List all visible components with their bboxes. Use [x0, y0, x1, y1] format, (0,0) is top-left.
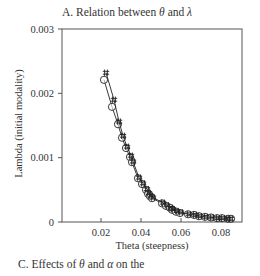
x-axis-label: Theta (steepness) — [62, 240, 242, 251]
y-tick-label: 0.003 — [30, 24, 54, 35]
title-prefix: A. Relation between — [62, 6, 159, 18]
circle-marker — [100, 76, 107, 83]
caption-mid: and — [85, 258, 107, 270]
chart-plot: 00.0010.0020.0030.020.040.060.08 — [0, 0, 260, 276]
chart-title: A. Relation between θ and λ — [62, 6, 192, 18]
x-tick-label: 0.04 — [132, 227, 151, 238]
y-tick-label: 0.001 — [30, 152, 54, 163]
title-mid: and — [165, 6, 187, 18]
x-tick-label: 0.08 — [212, 227, 230, 238]
y-axis-label: Lambda (initial modality) — [13, 54, 24, 194]
y-tick-label: 0 — [49, 217, 54, 228]
caption-prefix: C. Effects of — [18, 258, 79, 270]
lambda-symbol: λ — [187, 6, 192, 18]
circle-marker — [108, 103, 115, 110]
caption-suffix: on the — [113, 258, 144, 270]
x-tick-label: 0.02 — [92, 227, 110, 238]
x-tick-label: 0.06 — [172, 227, 190, 238]
next-figure-caption: C. Effects of θ and α on the — [18, 258, 144, 270]
y-tick-label: 0.002 — [30, 88, 54, 99]
